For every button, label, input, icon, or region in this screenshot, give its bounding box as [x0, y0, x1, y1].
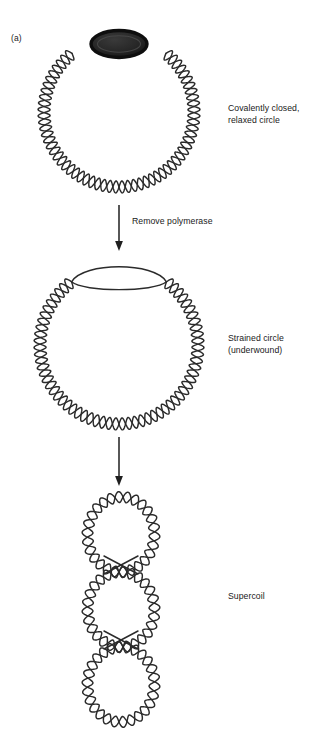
label-remove-polymerase: Remove polymerase: [132, 216, 213, 226]
dna-double-helix-icon: [82, 492, 160, 728]
stage-relaxed-circle: [38, 31, 200, 193]
label-relaxed-circle: Covalently closed, relaxed circle: [228, 102, 299, 126]
stage-supercoil: [82, 492, 160, 728]
dna-double-helix-icon: [34, 279, 204, 430]
label-supercoil: Supercoil: [228, 590, 265, 602]
polymerase-filled-ellipse-icon: [91, 31, 147, 58]
panel-label: (a): [11, 33, 22, 43]
dna-supercoiling-figure: (a): [0, 0, 326, 732]
down-arrow-icon-supercoil: [115, 437, 123, 486]
unwound-bubble-icon: [72, 267, 167, 290]
dna-double-helix-icon: [38, 51, 200, 193]
label-strained-circle: Strained circle (underwound): [228, 332, 284, 356]
stage-strained-circle: [34, 267, 204, 430]
bubble-strand-upper: [72, 267, 167, 282]
down-arrow-icon-remove-polymerase: [115, 205, 123, 251]
bubble-strand-lower: [72, 282, 167, 290]
